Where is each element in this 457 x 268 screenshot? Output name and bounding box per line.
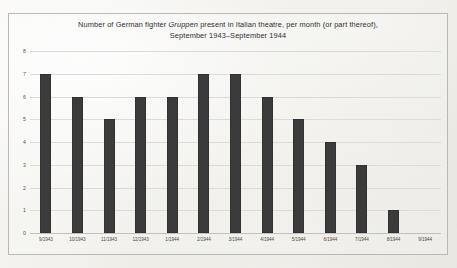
x-axis-tick-label: 9/1944	[409, 237, 441, 242]
x-axis-tick-label: 6/1944	[314, 237, 346, 242]
x-axis-tick-label: 7/1944	[346, 237, 378, 242]
bar	[262, 97, 273, 234]
chart-title-text-post: present in Italian theatre, per month (o…	[198, 20, 378, 29]
chart-container: Number of German fighter Gruppen present…	[8, 13, 448, 255]
bar-slot	[378, 51, 410, 233]
bar-slot	[220, 51, 252, 233]
x-axis-tick-label: 8/1944	[378, 237, 410, 242]
y-axis-tick-0: 0	[23, 230, 26, 236]
y-axis-tick-5: 5	[23, 116, 26, 122]
x-axis-tick-label: 4/1944	[251, 237, 283, 242]
x-axis-tick-label: 11/1943	[93, 237, 125, 242]
bar	[325, 142, 336, 233]
bar-slot	[346, 51, 378, 233]
x-axis-tick-label: 10/1943	[62, 237, 94, 242]
bar-slot	[93, 51, 125, 233]
x-axis-tick-label: 3/1944	[220, 237, 252, 242]
y-axis-tick-2: 2	[23, 185, 26, 191]
bar-slot	[188, 51, 220, 233]
x-axis-labels: 9/194310/194311/194312/19431/19442/19443…	[30, 237, 441, 242]
chart-title-line-2: September 1943–September 1944	[170, 31, 286, 40]
bar	[72, 97, 83, 234]
y-axis-tick-8: 8	[23, 48, 26, 54]
bar	[293, 119, 304, 233]
bar	[104, 119, 115, 233]
bar	[356, 165, 367, 233]
bar-series	[30, 51, 441, 233]
y-axis-tick-1: 1	[23, 207, 26, 213]
bar	[388, 210, 399, 233]
bar-slot	[156, 51, 188, 233]
bar-slot	[30, 51, 62, 233]
bar	[135, 97, 146, 234]
x-axis-tick-label: 12/1943	[125, 237, 157, 242]
x-axis-tick-label: 1/1944	[156, 237, 188, 242]
bar	[230, 74, 241, 233]
chart-title-text-pre: Number of German fighter	[78, 20, 168, 29]
x-axis-tick-label: 5/1944	[283, 237, 315, 242]
chart-title: Number of German fighter Gruppen present…	[9, 19, 447, 41]
bar-slot	[409, 51, 441, 233]
x-axis-tick-label: 9/1943	[30, 237, 62, 242]
bar-slot	[314, 51, 346, 233]
y-axis-tick-7: 7	[23, 71, 26, 77]
bar-slot	[283, 51, 315, 233]
bar-slot	[125, 51, 157, 233]
y-axis-tick-4: 4	[23, 139, 26, 145]
y-axis-tick-6: 6	[23, 94, 26, 100]
bar-slot	[62, 51, 94, 233]
bar-slot	[251, 51, 283, 233]
gridline-0: 0	[30, 233, 441, 234]
chart-title-emphasis-gruppen: Gruppen	[169, 20, 198, 29]
chart-title-line-1: Number of German fighter Gruppen present…	[78, 20, 378, 29]
bar	[198, 74, 209, 233]
bar	[167, 97, 178, 234]
y-axis-tick-3: 3	[23, 162, 26, 168]
bar	[40, 74, 51, 233]
x-axis-tick-label: 2/1944	[188, 237, 220, 242]
plot-area: 012345678	[30, 51, 441, 233]
